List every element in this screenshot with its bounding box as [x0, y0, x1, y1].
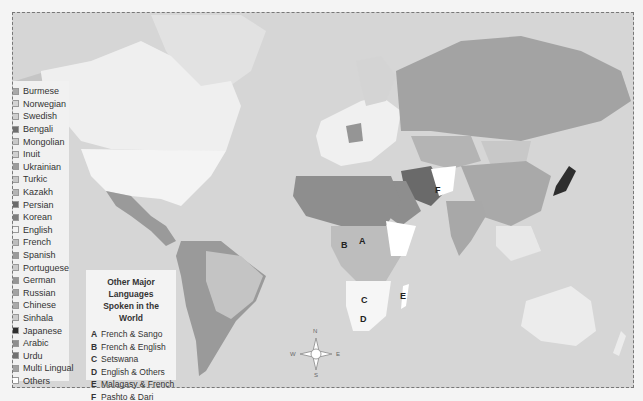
legend-item-korean: Korean — [12, 211, 65, 224]
legend-item-others: Others — [12, 375, 65, 388]
kazakhstan — [411, 136, 481, 169]
other-language-key: F — [91, 391, 101, 401]
other-language-item: BFrench & English — [91, 341, 171, 354]
legend-label: Inuit — [23, 149, 40, 159]
russia — [396, 36, 631, 141]
legend-item-spanish: Spanish — [12, 249, 65, 262]
legend-label: Bengali — [23, 124, 53, 134]
legend-label: Arabic — [23, 338, 49, 348]
legend-label: Swedish — [23, 111, 57, 121]
other-language-key: D — [91, 366, 101, 379]
legend-swatch — [12, 226, 19, 233]
other-languages-box: Other Major Languages Spoken in the Worl… — [86, 270, 176, 380]
legend-label: Persian — [23, 200, 54, 210]
map-marker-b: B — [341, 240, 348, 250]
legend-label: Spanish — [23, 250, 56, 260]
title-line-2: Spoken in the World — [91, 300, 171, 324]
compass-icon — [296, 334, 336, 374]
legend-label: Sinhala — [23, 313, 53, 323]
language-legend: BurmeseNorwegianSwedishBengaliMongolianI… — [12, 81, 69, 381]
legend-label: Japanese — [23, 326, 62, 336]
legend-swatch — [12, 327, 19, 334]
legend-item-japanese: Japanese — [12, 324, 65, 337]
legend-item-sinhala: Sinhala — [12, 312, 65, 325]
legend-item-french: French — [12, 236, 65, 249]
legend-item-german: German — [12, 274, 65, 287]
legend-item-norwegian: Norwegian — [12, 98, 65, 111]
legend-label: Turkic — [23, 174, 47, 184]
legend-label: Multi Lingual — [23, 363, 74, 373]
north-africa — [293, 176, 401, 226]
legend-item-multi-lingual: Multi Lingual — [12, 362, 65, 375]
other-language-label: French & Sango — [101, 329, 162, 339]
legend-label: Burmese — [23, 86, 59, 96]
legend-label: French — [23, 237, 51, 247]
legend-label: Korean — [23, 212, 52, 222]
map-marker-c: C — [361, 295, 368, 305]
legend-item-burmese: Burmese — [12, 85, 65, 98]
se-asia — [496, 226, 541, 261]
legend-item-portuguese: Portuguese — [12, 261, 65, 274]
legend-swatch — [12, 252, 19, 259]
legend-swatch — [12, 151, 19, 158]
legend-swatch — [12, 189, 19, 196]
other-language-label: English & Others — [101, 367, 165, 377]
east-africa — [386, 221, 416, 256]
legend-label: English — [23, 225, 53, 235]
legend-item-swedish: Swedish — [12, 110, 65, 123]
australia — [521, 286, 596, 346]
legend-swatch — [12, 377, 19, 384]
legend-swatch — [12, 365, 19, 372]
legend-swatch — [12, 201, 19, 208]
legend-swatch — [12, 264, 19, 271]
other-language-key: E — [91, 378, 101, 391]
legend-swatch — [12, 302, 19, 309]
legend-swatch — [12, 314, 19, 321]
other-language-label: Malagasy & French — [101, 379, 174, 389]
new-zealand — [613, 331, 626, 356]
other-language-label: Pashto & Dari — [101, 392, 153, 401]
legend-label: Russian — [23, 288, 56, 298]
legend-item-persian: Persian — [12, 198, 65, 211]
legend-item-arabic: Arabic — [12, 337, 65, 350]
legend-label: Others — [23, 376, 50, 386]
legend-swatch — [12, 138, 19, 145]
compass-n: N — [313, 328, 317, 334]
legend-label: Kazakh — [23, 187, 53, 197]
map-marker-f: F — [435, 185, 441, 195]
usa — [81, 149, 226, 206]
other-language-item: FPashto & Dari — [91, 391, 171, 401]
legend-label: Norwegian — [23, 99, 66, 109]
legend-item-english: English — [12, 224, 65, 237]
other-language-key: B — [91, 341, 101, 354]
legend-swatch — [12, 163, 19, 170]
legend-item-kazakh: Kazakh — [12, 186, 65, 199]
india — [446, 201, 486, 256]
legend-item-russian: Russian — [12, 287, 65, 300]
compass-rose: N S W E — [296, 334, 336, 374]
legend-swatch — [12, 239, 19, 246]
map-marker-a: A — [359, 236, 366, 246]
other-language-item: CSetswana — [91, 353, 171, 366]
compass-s: S — [314, 372, 318, 378]
legend-label: Portuguese — [23, 263, 69, 273]
legend-swatch — [12, 176, 19, 183]
other-language-item: DEnglish & Others — [91, 366, 171, 379]
map-marker-d: D — [360, 314, 367, 324]
other-language-item: EMalagasy & French — [91, 378, 171, 391]
legend-swatch — [12, 352, 19, 359]
germany — [346, 123, 363, 143]
other-language-label: Setswana — [101, 354, 138, 364]
other-language-item: AFrench & Sango — [91, 328, 171, 341]
legend-item-turkic: Turkic — [12, 173, 65, 186]
legend-swatch — [12, 289, 19, 296]
legend-item-mongolian: Mongolian — [12, 135, 65, 148]
map-marker-e: E — [400, 291, 406, 301]
legend-label: German — [23, 275, 56, 285]
legend-swatch — [12, 113, 19, 120]
legend-swatch — [12, 88, 19, 95]
legend-label: Mongolian — [23, 137, 65, 147]
legend-label: Urdu — [23, 351, 43, 361]
southern-africa — [346, 281, 391, 331]
legend-swatch — [12, 214, 19, 221]
